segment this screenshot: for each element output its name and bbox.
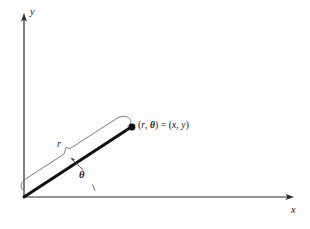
radius-brace [21,116,131,190]
point-label-equals: = [158,120,168,130]
theta-label: θ [79,170,84,181]
figure-vector-canvas [0,0,310,229]
y-axis [21,13,27,197]
theta-baseline-tick [93,185,96,191]
point-label-close-paren-2: ) [186,120,189,130]
point-coordinates-label: (r, θ) = (x, y) [138,121,189,131]
point-marker-icon [129,124,136,131]
x-axis-label: x [291,205,295,215]
x-axis [24,194,294,200]
y-axis-label: y [30,7,34,17]
radius-ray [24,128,131,197]
polar-coordinates-figure: y x r θ (r, θ) = (x, y) [0,0,310,229]
radius-label: r [57,139,61,149]
